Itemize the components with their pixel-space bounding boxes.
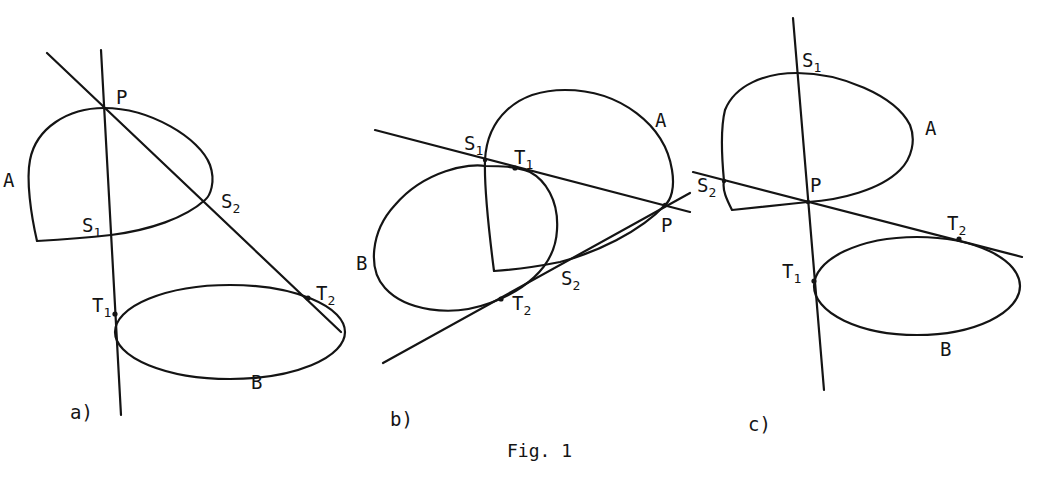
curve-a bbox=[485, 90, 673, 271]
label-p: P bbox=[116, 86, 127, 108]
label-curve-a: A bbox=[655, 109, 667, 131]
label-curve-b: B bbox=[356, 252, 367, 274]
label-s1: S1 bbox=[802, 49, 821, 75]
label-curve-b: B bbox=[251, 371, 262, 393]
panel-b: A S1 T1 P B S2 T2 b) bbox=[356, 90, 690, 430]
label-p: P bbox=[661, 214, 672, 236]
label-p: P bbox=[810, 174, 821, 196]
panel-c: S1 A S2 P T2 T1 B c) bbox=[693, 18, 1022, 435]
label-curve-b: B bbox=[940, 338, 951, 360]
figure-1: P A S2 S1 T1 T2 B a) A S1 T1 P B S2 T2 b… bbox=[0, 0, 1063, 478]
line-t2-p bbox=[383, 193, 690, 363]
label-s2: S2 bbox=[221, 190, 240, 216]
label-t2: T2 bbox=[947, 212, 966, 238]
label-t1: T1 bbox=[782, 260, 801, 286]
label-curve-a: A bbox=[925, 117, 937, 139]
point-p-dot bbox=[806, 200, 810, 204]
line-s2-t2 bbox=[693, 172, 1022, 257]
label-t2: T2 bbox=[316, 282, 335, 308]
curve-b bbox=[374, 165, 557, 310]
line-p-t2 bbox=[47, 53, 341, 332]
figure-caption: Fig. 1 bbox=[507, 440, 572, 461]
curve-b bbox=[115, 285, 345, 379]
panel-label-b: b) bbox=[390, 408, 413, 430]
point-t2-dot bbox=[498, 296, 503, 301]
panel-label-c: c) bbox=[748, 413, 771, 435]
panel-label-a: a) bbox=[70, 401, 93, 423]
point-s2-dot bbox=[722, 179, 726, 183]
point-s1-dot bbox=[483, 158, 487, 162]
point-p-dot bbox=[663, 203, 667, 207]
label-t2: T2 bbox=[512, 292, 531, 318]
label-s2: S2 bbox=[561, 267, 580, 293]
curve-b bbox=[814, 237, 1020, 335]
point-t1-dot bbox=[112, 311, 117, 316]
label-t1: T1 bbox=[92, 294, 111, 320]
point-t2-dot bbox=[305, 295, 310, 300]
point-t1-dot bbox=[811, 278, 816, 283]
label-curve-a: A bbox=[3, 169, 15, 191]
curve-a bbox=[29, 108, 213, 241]
panel-a: P A S2 S1 T1 T2 B a) bbox=[3, 50, 345, 423]
